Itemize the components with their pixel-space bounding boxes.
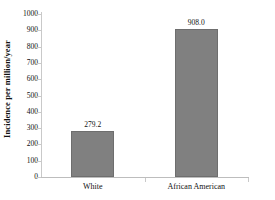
y-axis-tick-mark bbox=[37, 63, 41, 64]
y-axis-tick-mark bbox=[37, 112, 41, 113]
y-axis-tick-mark bbox=[37, 128, 41, 129]
y-axis-tick-label: 400 bbox=[14, 108, 38, 116]
y-axis-tick-label: 800 bbox=[14, 43, 38, 51]
y-axis-tick-label: 500 bbox=[14, 92, 38, 100]
y-axis-tick-mark bbox=[37, 96, 41, 97]
y-axis-tick-mark bbox=[37, 47, 41, 48]
y-axis-tick-labels: 10009008007006005004003002001000 bbox=[14, 0, 38, 190]
bar-value-label: 279.2 bbox=[63, 120, 123, 129]
y-axis-tick-mark bbox=[37, 14, 41, 15]
y-axis-line bbox=[41, 12, 42, 178]
bar-african-american bbox=[175, 29, 218, 177]
y-axis-tick-mark bbox=[37, 144, 41, 145]
y-axis-tick-mark bbox=[37, 177, 41, 178]
y-axis-tick-label: 700 bbox=[14, 59, 38, 67]
y-axis-tick-label: 200 bbox=[14, 140, 38, 148]
bar-value-label: 908.0 bbox=[166, 18, 226, 27]
y-axis-title: Incidence per million/year bbox=[0, 0, 14, 178]
y-axis-tick-label: 1000 bbox=[14, 10, 38, 18]
y-axis-tick-label: 300 bbox=[14, 124, 38, 132]
y-axis-tick-label: 100 bbox=[14, 157, 38, 165]
y-axis-tick-mark bbox=[37, 79, 41, 80]
bar-white bbox=[71, 131, 114, 177]
y-axis-tick-label: 900 bbox=[14, 26, 38, 34]
x-axis-tick-mark bbox=[248, 178, 249, 182]
y-axis-tick-label: 0 bbox=[14, 173, 38, 181]
bar-chart: Incidence per million/year 1000900800700… bbox=[0, 0, 275, 200]
x-axis-category-label: African American bbox=[141, 182, 251, 192]
y-axis-tick-mark bbox=[37, 30, 41, 31]
y-axis-title-text: Incidence per million/year bbox=[2, 40, 12, 138]
y-axis-tick-mark bbox=[37, 161, 41, 162]
y-axis-tick-label: 600 bbox=[14, 75, 38, 83]
x-axis-category-label: White bbox=[38, 182, 148, 192]
